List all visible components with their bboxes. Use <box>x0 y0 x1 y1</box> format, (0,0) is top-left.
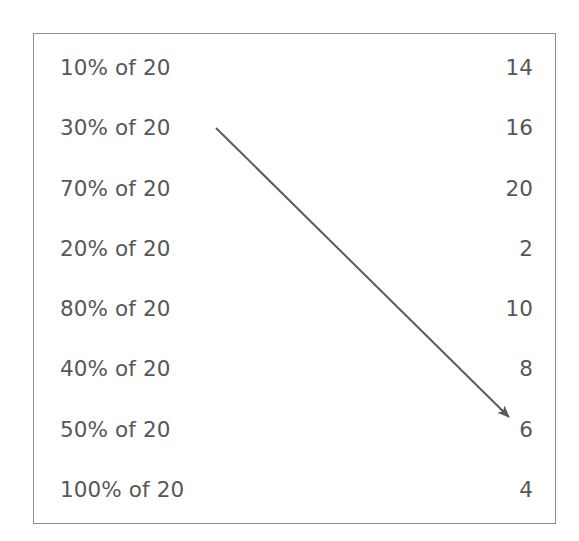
exercise-frame: 10% of 20 14 30% of 20 16 70% of 20 20 2… <box>33 33 556 524</box>
match-value[interactable]: 20 <box>505 176 533 201</box>
match-row[interactable]: 100% of 20 4 <box>60 477 533 502</box>
match-value[interactable]: 4 <box>519 477 533 502</box>
match-term[interactable]: 30% of 20 <box>60 115 170 140</box>
match-term[interactable]: 40% of 20 <box>60 356 170 381</box>
match-term[interactable]: 10% of 20 <box>60 55 170 80</box>
match-row[interactable]: 20% of 20 2 <box>60 236 533 261</box>
match-rows-list: 10% of 20 14 30% of 20 16 70% of 20 20 2… <box>34 34 555 523</box>
match-row[interactable]: 40% of 20 8 <box>60 356 533 381</box>
match-value[interactable]: 16 <box>505 115 533 140</box>
match-term[interactable]: 80% of 20 <box>60 296 170 321</box>
match-value[interactable]: 10 <box>505 296 533 321</box>
match-value[interactable]: 2 <box>519 236 533 261</box>
matching-exercise-screenshot: 10% of 20 14 30% of 20 16 70% of 20 20 2… <box>0 0 579 541</box>
match-row[interactable]: 30% of 20 16 <box>60 115 533 140</box>
match-row[interactable]: 70% of 20 20 <box>60 176 533 201</box>
match-row[interactable]: 10% of 20 14 <box>60 55 533 80</box>
match-row[interactable]: 80% of 20 10 <box>60 296 533 321</box>
match-row[interactable]: 50% of 20 6 <box>60 417 533 442</box>
match-value[interactable]: 6 <box>519 417 533 442</box>
match-term[interactable]: 50% of 20 <box>60 417 170 442</box>
match-term[interactable]: 100% of 20 <box>60 477 184 502</box>
match-value[interactable]: 8 <box>519 356 533 381</box>
match-term[interactable]: 70% of 20 <box>60 176 170 201</box>
match-term[interactable]: 20% of 20 <box>60 236 170 261</box>
match-value[interactable]: 14 <box>505 55 533 80</box>
